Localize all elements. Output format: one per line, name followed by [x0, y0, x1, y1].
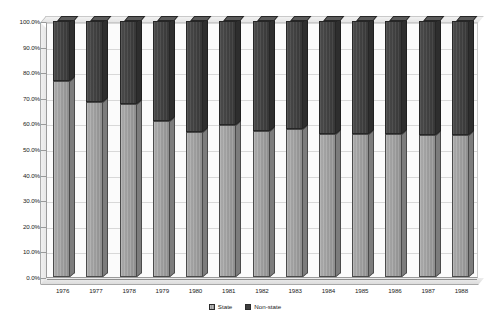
bar-segment-non-state[interactable] [319, 21, 336, 134]
x-axis-tick-label: 1986 [381, 287, 409, 294]
bar-column[interactable] [352, 21, 369, 277]
bar-column[interactable] [385, 21, 402, 277]
bar-column[interactable] [86, 21, 103, 277]
bar-segment-non-state[interactable] [53, 21, 70, 81]
bar-front-face [452, 21, 469, 135]
bar-column[interactable] [419, 21, 436, 277]
bar-segment-state[interactable] [53, 81, 70, 277]
bar-segment-state[interactable] [385, 134, 402, 277]
bar-front-face [253, 21, 270, 131]
y-axis-tick-mark [41, 278, 46, 279]
bar-column[interactable] [53, 21, 70, 277]
bar-segment-non-state[interactable] [286, 21, 303, 129]
bar-side-face [402, 17, 407, 134]
bar-segment-state[interactable] [86, 102, 103, 277]
x-axis-tick-label: 1978 [115, 287, 143, 294]
y-axis-tick-label: 20.0% [23, 224, 40, 230]
bar-side-face [103, 17, 108, 102]
bar-column[interactable] [319, 21, 336, 277]
bar-front-face [352, 21, 369, 134]
bar-front-face [419, 135, 436, 277]
bar-side-face [170, 17, 175, 121]
bar-side-face [70, 77, 75, 277]
bar-front-face [86, 21, 103, 102]
bar-segment-non-state[interactable] [253, 21, 270, 131]
bar-segment-state[interactable] [419, 135, 436, 277]
bar-front-face [120, 21, 137, 104]
bar-segment-state[interactable] [286, 129, 303, 277]
bar-segment-non-state[interactable] [385, 21, 402, 134]
bar-side-face [469, 131, 474, 277]
bar-front-face [319, 21, 336, 134]
bar-column[interactable] [452, 21, 469, 277]
bar-side-face [336, 17, 341, 134]
y-axis-tick-mark [41, 124, 46, 125]
bar-segment-state[interactable] [253, 131, 270, 277]
y-axis-tick-mark [41, 73, 46, 74]
x-axis-tick-label: 1979 [148, 287, 176, 294]
bar-segment-non-state[interactable] [419, 21, 436, 135]
bar-segment-state[interactable] [120, 104, 137, 277]
bar-column[interactable] [219, 21, 236, 277]
bar-front-face [186, 21, 203, 132]
bar-front-face [219, 125, 236, 277]
bar-front-face [286, 129, 303, 277]
y-axis-tick-label: 70.0% [23, 96, 40, 102]
bar-front-face [86, 102, 103, 277]
y-axis-tick-mark [41, 252, 46, 253]
bar-side-face [103, 97, 108, 277]
y-axis-labels: 0.0%10.0%20.0%30.0%40.0%50.0%60.0%70.0%8… [6, 0, 40, 326]
y-axis-tick-label: 30.0% [23, 198, 40, 204]
bar-front-face [53, 81, 70, 277]
bar-segment-state[interactable] [452, 135, 469, 277]
bar-segment-non-state[interactable] [352, 21, 369, 134]
bar-segment-non-state[interactable] [452, 21, 469, 135]
bar-column[interactable] [120, 21, 137, 277]
bar-side-face [236, 17, 241, 125]
legend-item-label: State [218, 304, 232, 310]
bar-segment-state[interactable] [186, 132, 203, 277]
x-axis-tick-label: 1987 [414, 287, 442, 294]
y-axis-tick-mark [41, 150, 46, 151]
bar-front-face [253, 131, 270, 277]
bar-segment-state[interactable] [319, 134, 336, 277]
bar-front-face [419, 21, 436, 135]
bar-front-face [153, 121, 170, 277]
y-axis-tick-label: 90.0% [23, 45, 40, 51]
bar-segment-state[interactable] [219, 125, 236, 277]
bar-side-face [436, 17, 441, 135]
bar-column[interactable] [286, 21, 303, 277]
bar-column[interactable] [153, 21, 170, 277]
bar-side-face [70, 17, 75, 81]
x-axis-tick-label: 1988 [447, 287, 475, 294]
bar-segment-non-state[interactable] [186, 21, 203, 132]
bar-side-face [469, 17, 474, 135]
bar-segment-non-state[interactable] [120, 21, 137, 104]
bar-segment-non-state[interactable] [86, 21, 103, 102]
bar-front-face [452, 135, 469, 277]
y-axis-tick-mark [41, 176, 46, 177]
bar-front-face [186, 132, 203, 277]
bar-segment-non-state[interactable] [153, 21, 170, 121]
bar-segment-non-state[interactable] [219, 21, 236, 125]
bar-column[interactable] [186, 21, 203, 277]
x-axis-tick-label: 1984 [314, 287, 342, 294]
bar-segment-state[interactable] [352, 134, 369, 277]
bar-side-face [137, 17, 142, 104]
bar-front-face [352, 134, 369, 277]
bar-side-face [336, 129, 341, 277]
y-axis-tick-mark [41, 22, 46, 23]
bar-side-face [436, 131, 441, 277]
legend-item[interactable]: State [209, 304, 232, 310]
legend-item[interactable]: Non-state [245, 304, 281, 310]
x-axis-tick-label: 1980 [182, 287, 210, 294]
bar-segment-state[interactable] [153, 121, 170, 277]
bar-side-face [303, 124, 308, 277]
bar-side-face [369, 17, 374, 134]
y-axis-tick-label: 80.0% [23, 70, 40, 76]
bar-column[interactable] [253, 21, 270, 277]
bar-side-face [270, 17, 275, 131]
nonstate-swatch-icon [245, 304, 251, 310]
y-axis-tick-mark [41, 201, 46, 202]
bar-front-face [385, 134, 402, 277]
